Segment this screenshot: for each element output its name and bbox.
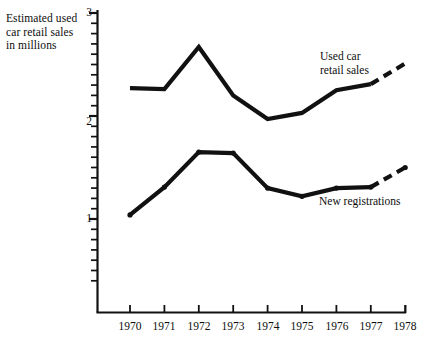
data-point-marker [162, 185, 167, 190]
data-point-marker [299, 194, 304, 199]
data-point-marker [403, 165, 408, 170]
series-line-projected [371, 64, 405, 85]
axis-lines [97, 10, 407, 313]
data-point-marker [265, 186, 270, 191]
data-point-marker [368, 185, 373, 190]
series-line [130, 47, 371, 119]
series-line [130, 152, 371, 215]
data-point-marker [196, 150, 201, 155]
data-series-new-registrations [127, 150, 407, 218]
y-axis-ticks [89, 13, 97, 281]
plot-area [0, 0, 424, 350]
chart-container: Estimated used car retail sales in milli… [0, 0, 424, 350]
data-point-marker [231, 151, 236, 156]
data-point-marker [334, 186, 339, 191]
data-series-used-car-retail-sales [130, 47, 405, 119]
data-point-marker [127, 212, 132, 217]
data-series-layer [127, 47, 407, 217]
series-line-projected [371, 168, 405, 188]
